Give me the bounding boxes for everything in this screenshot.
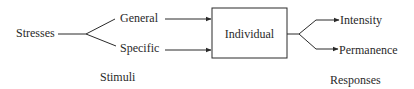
response-permanence-label: Permanence [339,43,398,57]
response-intensity-label: Intensity [340,13,382,27]
responses-fork-connector [287,20,316,49]
stimulus-general-label: General [120,11,159,25]
stresses-fork-connector [58,19,116,46]
stimulus-specific-label: Specific [120,41,159,55]
responses-caption: Responses [330,73,381,87]
stresses-label: Stresses [16,26,55,40]
stimuli-caption: Stimuli [100,70,136,84]
individual-label: Individual [225,27,275,41]
stress-response-diagram: Stresses General Specific Individual Int… [0,0,414,89]
